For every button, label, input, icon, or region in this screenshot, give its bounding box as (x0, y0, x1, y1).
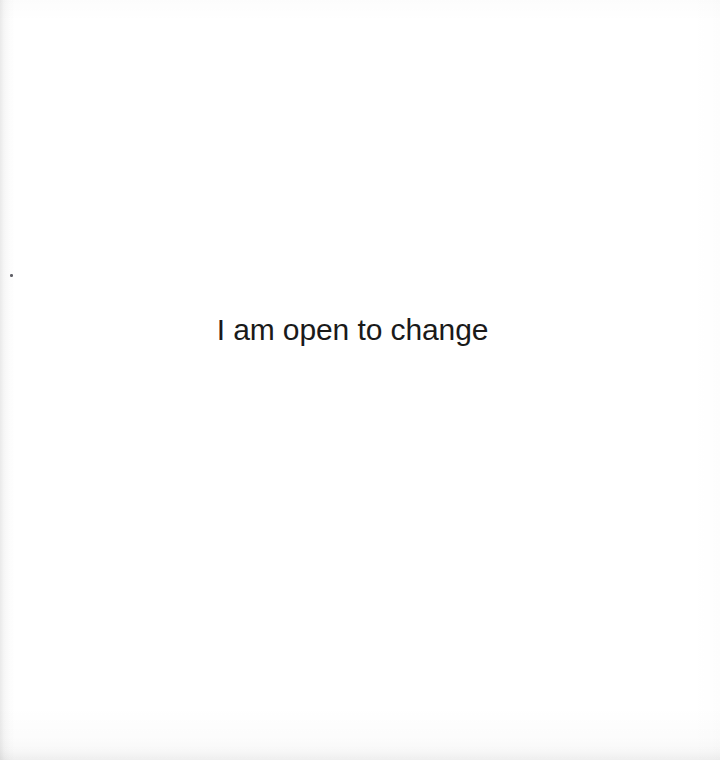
affirmation-text: I am open to change (217, 310, 489, 350)
bottom-edge-shadow (0, 740, 720, 760)
left-edge-shadow (0, 0, 14, 760)
page-canvas: I am open to change (0, 0, 720, 760)
affirmation-block: I am open to change (0, 310, 705, 350)
paper-texture-overlay (0, 0, 720, 760)
scan-speck-artifact (10, 274, 13, 277)
